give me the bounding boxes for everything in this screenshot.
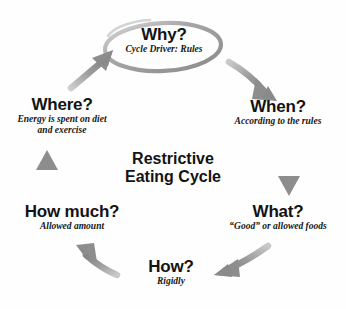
center-title-line-1: Restrictive — [93, 150, 253, 168]
node-what: What? “Good” or allowed foods — [210, 203, 346, 232]
node-when-caption: According to the rules — [210, 116, 346, 126]
restrictive-eating-cycle-diagram: Why? Cycle Driver: Rules When? According… — [0, 0, 346, 309]
diagram-center-title: Restrictive Eating Cycle — [93, 150, 253, 186]
node-why-title: Why? — [108, 26, 220, 43]
node-how-title: How? — [118, 258, 224, 275]
node-where-caption-line2: and exercise — [38, 125, 87, 135]
arrow-where-to-why — [71, 50, 113, 88]
node-how-caption: Rigidly — [118, 276, 224, 286]
node-how: How? Rigidly — [118, 258, 224, 287]
node-where-title: Where? — [0, 96, 124, 113]
arrow-how-to-how-much — [76, 243, 117, 275]
center-title-line-2: Eating Cycle — [93, 168, 253, 186]
arrow-why-to-when — [229, 62, 277, 101]
arrow-when-to-what — [278, 148, 300, 196]
arrow-how-much-to-where — [36, 150, 58, 198]
node-where-caption-line1: Energy is spent on diet — [17, 114, 106, 124]
node-why-caption: Cycle Driver: Rules — [108, 44, 220, 54]
node-what-caption: “Good” or allowed foods — [210, 221, 346, 231]
node-why: Why? Cycle Driver: Rules — [108, 26, 220, 55]
node-where: Where? Energy is spent on diet and exerc… — [0, 96, 124, 135]
node-when-title: When? — [210, 98, 346, 115]
node-what-title: What? — [210, 203, 346, 220]
node-how-much-caption: Allowed amount — [2, 221, 142, 231]
node-when: When? According to the rules — [210, 98, 346, 127]
node-where-caption: Energy is spent on diet and exercise — [0, 114, 124, 135]
node-how-much-title: How much? — [2, 203, 142, 220]
node-how-much: How much? Allowed amount — [2, 203, 142, 232]
